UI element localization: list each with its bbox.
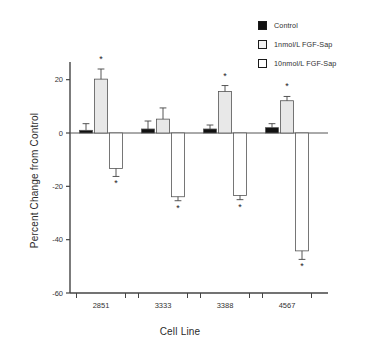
bar-3388-series2: * — [234, 133, 247, 212]
x-axis-title: Cell Line — [55, 326, 305, 337]
bar-4567-series2: * — [296, 133, 309, 271]
bar-4567-series1: * — [281, 81, 294, 133]
y-axis-title: Percent Change from Control — [29, 81, 40, 281]
y-tick-label: 0 — [59, 129, 63, 138]
significance-marker: * — [176, 203, 180, 213]
bar-2851-series0 — [80, 124, 93, 133]
x-category-label: 3333 — [155, 301, 172, 310]
chart-x-category-labels: 2851333333884567 — [77, 293, 312, 310]
significance-marker: * — [223, 71, 227, 81]
chart-bars: ******* — [80, 54, 309, 271]
chart-y-tick-labels: 200-20-40-60 — [52, 75, 70, 297]
bar-3333-series1 — [157, 108, 170, 133]
significance-marker: * — [99, 54, 103, 64]
y-tick-label: -40 — [52, 235, 63, 244]
bar-3333-series2: * — [172, 133, 185, 213]
x-category-label: 3388 — [217, 301, 234, 310]
x-category-label: 2851 — [93, 301, 110, 310]
bar-4567-series0 — [266, 124, 279, 133]
y-tick-label: -20 — [52, 182, 63, 191]
bar-2851-series2: * — [110, 133, 123, 188]
x-category-label: 4567 — [279, 301, 296, 310]
significance-marker: * — [285, 81, 289, 91]
significance-marker: * — [300, 261, 304, 271]
figure-panel: Control 1nmol/L FGF-Sap 10nmol/L FGF-Sap… — [0, 0, 377, 349]
significance-marker: * — [238, 202, 242, 212]
y-tick-label: -60 — [52, 289, 63, 298]
bar-2851-series1: * — [95, 54, 108, 133]
bar-3388-series1: * — [219, 71, 232, 133]
bar-3388-series0 — [204, 125, 217, 133]
bar-3333-series0 — [142, 121, 155, 133]
chart-plot-area: ******* 200-20-40-60 2851333333884567 — [0, 0, 377, 349]
significance-marker: * — [114, 178, 118, 188]
y-tick-label: 20 — [55, 75, 63, 84]
